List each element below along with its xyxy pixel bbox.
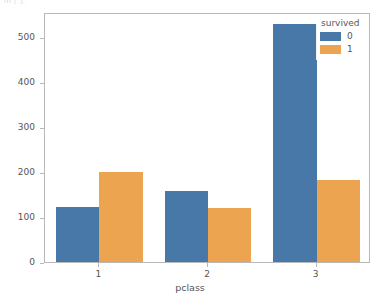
legend: survived 01 <box>316 16 364 60</box>
figure-canvas: In [ ]: count 0100200300400500 123 pclas… <box>0 0 380 302</box>
x-tick-mark <box>207 263 208 267</box>
y-tick-label: 100 <box>0 212 35 222</box>
y-tick-label: 0 <box>0 257 35 267</box>
legend-item-0: 0 <box>320 31 360 42</box>
x-axis-label: pclass <box>0 282 380 293</box>
x-tick-label: 2 <box>187 269 227 279</box>
x-tick-mark <box>316 263 317 267</box>
notebook-prompt-artifact: In [ ]: <box>4 0 26 5</box>
bar-2-survived-0 <box>165 191 208 262</box>
legend-item-1: 1 <box>320 44 360 55</box>
y-tick-label: 200 <box>0 167 35 177</box>
bar-1-survived-1 <box>99 172 142 262</box>
legend-swatch-1 <box>320 45 341 54</box>
bar-3-survived-0 <box>273 24 316 262</box>
bar-2-survived-1 <box>208 208 251 262</box>
legend-entries: 01 <box>320 31 360 55</box>
y-tick-label: 400 <box>0 77 35 87</box>
legend-title: survived <box>321 18 360 28</box>
bar-1-survived-0 <box>56 207 99 262</box>
x-tick-mark <box>98 263 99 267</box>
legend-swatch-0 <box>320 32 341 41</box>
x-tick-label: 1 <box>78 269 118 279</box>
x-tick-label: 3 <box>296 269 336 279</box>
y-tick-label: 300 <box>0 122 35 132</box>
y-tick-label: 500 <box>0 32 35 42</box>
y-tick-mark <box>40 263 44 264</box>
legend-label: 1 <box>347 45 353 54</box>
bar-3-survived-1 <box>317 180 360 262</box>
legend-label: 0 <box>347 32 353 41</box>
